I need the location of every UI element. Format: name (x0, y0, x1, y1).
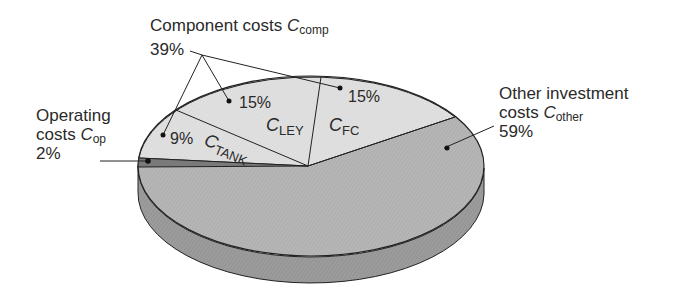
label-operating-costs: Operating costs Cop 2% (36, 106, 111, 163)
subscript: FC (342, 123, 359, 138)
label-text: costs (36, 125, 80, 144)
label-text: Other investment (499, 84, 628, 103)
label-tank-pct: 9% (170, 130, 193, 148)
subscript: LEY (279, 123, 304, 138)
label-text: Component costs (150, 16, 287, 35)
symbol-c: C (80, 125, 92, 144)
subscript: other (556, 110, 583, 124)
label-ley-pct: 15% (239, 94, 271, 112)
label-text: costs (499, 103, 543, 122)
subscript: comp (299, 23, 328, 37)
label-fc: CFC (329, 116, 359, 135)
symbol-c: C (287, 16, 299, 35)
label-other-pct: 59% (499, 122, 628, 141)
label-component-costs: Component costs Ccomp (150, 16, 329, 35)
label-other-costs: Other investment costs Cother 59% (499, 84, 628, 141)
subscript: op (93, 132, 106, 146)
symbol-c: C (329, 115, 342, 135)
label-fc-pct: 15% (348, 88, 380, 106)
label-component-pct: 39% (150, 40, 184, 59)
symbol-c: C (266, 115, 279, 135)
label-text: Operating (36, 106, 111, 125)
symbol-c: C (543, 103, 555, 122)
label-operating-pct: 2% (36, 144, 111, 163)
label-ley: CLEY (266, 116, 304, 135)
